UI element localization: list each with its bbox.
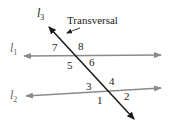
- angle-7: 7: [52, 41, 58, 53]
- transversal-diagram: Transversal l3 l1 l2 7 8 5 6 3 4 1 2: [0, 0, 173, 125]
- transversal-label: Transversal: [67, 14, 118, 26]
- angle-4: 4: [109, 75, 115, 87]
- angle-5: 5: [67, 59, 73, 71]
- line-label-l1: l1: [10, 41, 17, 57]
- line-label-l2: l2: [10, 88, 17, 104]
- callout-arrow: [67, 28, 80, 33]
- angle-6: 6: [89, 56, 95, 68]
- angle-1: 1: [97, 94, 103, 106]
- angle-8: 8: [78, 40, 84, 52]
- line-l2: [26, 88, 161, 96]
- line-l3-transversal: [49, 27, 134, 119]
- line-label-l3: l3: [37, 6, 44, 22]
- angle-3: 3: [86, 80, 92, 92]
- angle-2: 2: [124, 90, 130, 102]
